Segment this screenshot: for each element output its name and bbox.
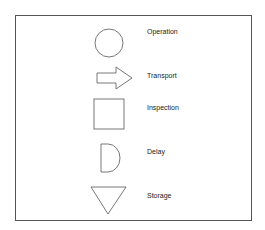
label-inspection: Inspection — [147, 104, 179, 111]
transport-arrow-icon — [97, 67, 132, 89]
delay-d-icon — [101, 144, 120, 172]
label-storage: Storage — [147, 192, 172, 199]
operation-circle-icon — [95, 29, 123, 57]
inspection-square-icon — [94, 99, 124, 129]
storage-triangle-icon — [91, 187, 126, 214]
label-operation: Operation — [147, 28, 178, 35]
label-delay: Delay — [147, 148, 165, 155]
label-transport: Transport — [147, 72, 177, 79]
symbols-canvas — [0, 0, 265, 230]
